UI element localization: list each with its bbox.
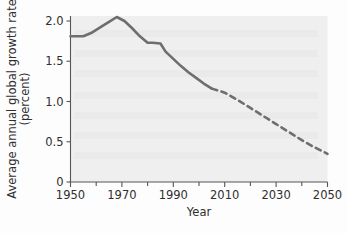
x-tick-label: 1950 (56, 188, 85, 202)
growth-rate-line-chart: 00.51.01.52.0195019701990201020302050Yea… (0, 0, 347, 233)
x-tick-label: 2030 (261, 188, 290, 202)
x-axis-ticks: 195019701990201020302050 (56, 182, 342, 202)
x-axis-title: Year (186, 205, 212, 219)
figure-container: 00.51.01.52.0195019701990201020302050Yea… (0, 0, 347, 233)
y-tick-label: 1.5 (45, 54, 63, 68)
x-tick-label: 2050 (313, 188, 342, 202)
x-tick-label: 1970 (107, 188, 136, 202)
y-tick-label: 0 (56, 175, 63, 189)
y-tick-label: 1.0 (45, 95, 63, 109)
y-axis-title: Average annual global growth rate(percen… (5, 0, 32, 199)
y-tick-label: 0.5 (45, 135, 63, 149)
y-axis-ticks: 00.51.01.52.0 (45, 14, 70, 189)
y-axis-title-line2: (percent) (18, 72, 32, 125)
x-tick-label: 2010 (210, 188, 239, 202)
x-tick-label: 1990 (159, 188, 188, 202)
y-tick-label: 2.0 (45, 14, 63, 28)
y-axis-title-line1: Average annual global growth rate (5, 0, 19, 199)
